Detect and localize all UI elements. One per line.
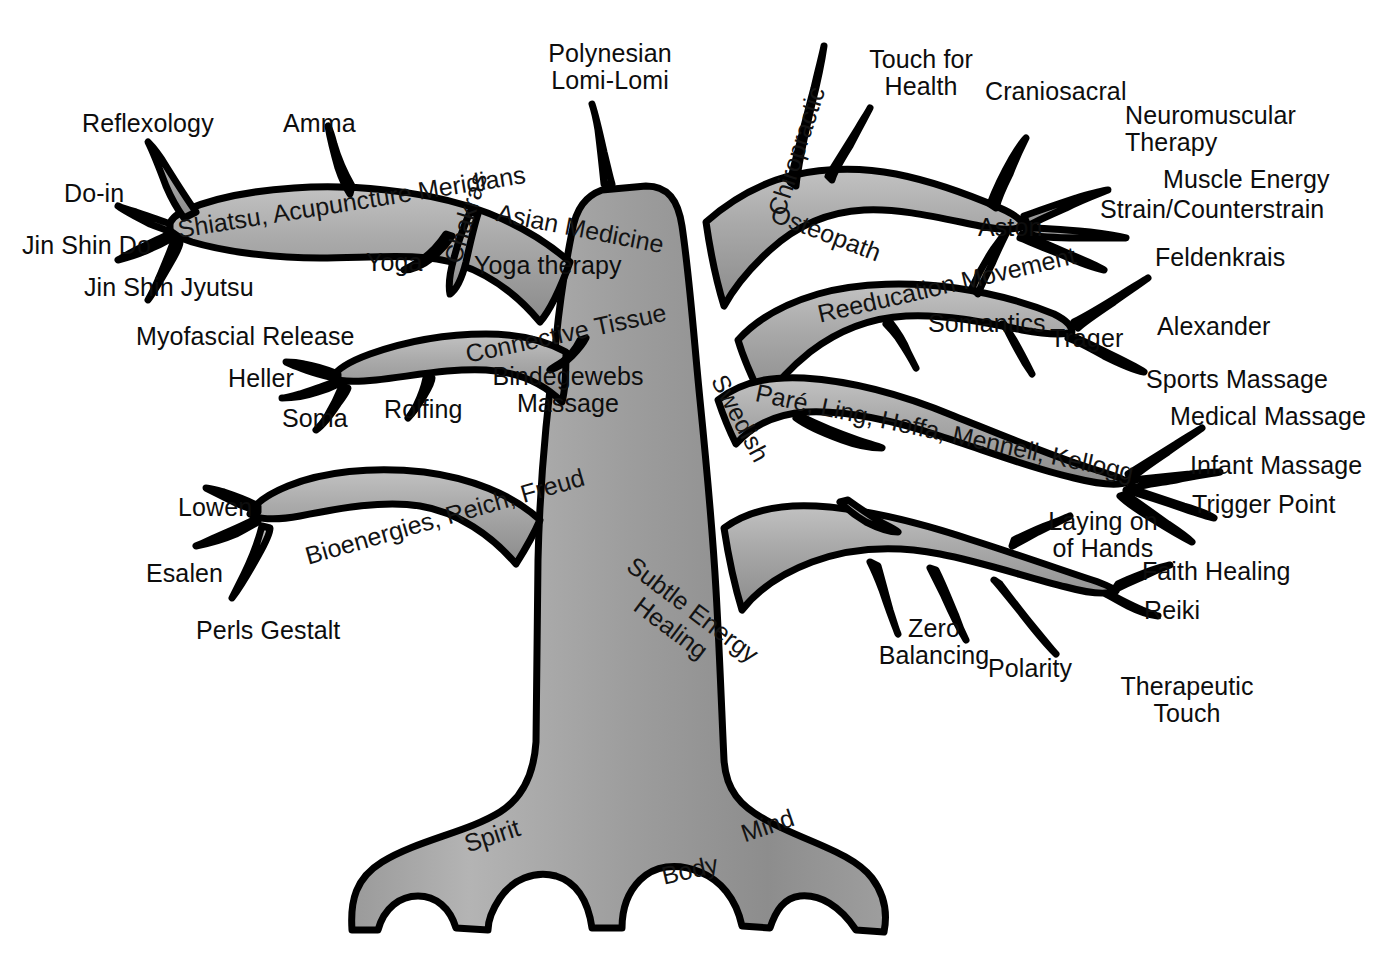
limb-polynesian (592, 104, 612, 184)
label-craniosacral: Craniosacral (985, 78, 1127, 105)
label-aston: Aston (978, 214, 1042, 241)
label-bindegewebs-massage: BindegewebsMassage (488, 363, 648, 416)
label-strain-counterstrain: Strain/Counterstrain (1100, 196, 1324, 223)
label-zero-balancing: ZeroBalancing (868, 615, 1000, 668)
label-somantics: Somantics (928, 310, 1046, 337)
label-polarity: Polarity (988, 655, 1072, 682)
label-alexander: Alexander (1157, 313, 1270, 340)
label-reflexology: Reflexology (82, 110, 214, 137)
twig-esalen (196, 520, 258, 546)
label-feldenkrais: Feldenkrais (1155, 244, 1285, 271)
label-esalen: Esalen (146, 560, 223, 587)
label-myofascial-release: Myofascial Release (136, 323, 355, 350)
label-laying-on-of-hands: Laying onof Hands (1030, 508, 1176, 561)
label-trager: Trager (1050, 325, 1123, 352)
label-neuromuscular-therapy: NeuromuscularTherapy (1125, 102, 1296, 155)
label-jin-shin-do: Jin Shin Do (22, 232, 151, 259)
twig-craniosacral (990, 138, 1026, 208)
label-muscle-energy: Muscle Energy (1163, 166, 1330, 193)
label-yoga-therapy: Yoga therapy (474, 252, 622, 279)
twig-reflexology (148, 142, 196, 218)
label-reiki: Reiki (1144, 597, 1200, 624)
label-infant-massage: Infant Massage (1190, 452, 1362, 479)
diagram-canvas: Reflexology Amma Do-in Jin Shin Do Jin S… (0, 0, 1377, 953)
twig-feldenkrais (1074, 278, 1148, 328)
label-perls-gestalt: Perls Gestalt (196, 617, 340, 644)
label-medical-massage: Medical Massage (1170, 403, 1366, 430)
label-doin: Do-in (64, 180, 124, 207)
label-trigger-point: Trigger Point (1192, 491, 1336, 518)
twig-therapeutic-touch (994, 580, 1056, 654)
label-heller: Heller (228, 365, 294, 392)
label-yoga: Yoga (366, 249, 423, 276)
label-lowen: Lowen (178, 494, 252, 521)
label-polynesian-lomi-lomi: PolynesianLomi-Lomi (520, 40, 700, 93)
label-amma: Amma (283, 110, 356, 137)
label-jin-shin-jyutsu: Jin Shin Jyutsu (84, 274, 254, 301)
label-rolfing: Rolfing (384, 396, 463, 423)
twig-somantics (886, 322, 916, 368)
twig-doin (118, 206, 170, 232)
label-sports-massage: Sports Massage (1146, 366, 1328, 393)
label-therapeutic-touch: TherapeuticTouch (1112, 673, 1262, 726)
label-soma: Soma (282, 405, 348, 432)
label-touch-for-health: Touch forHealth (846, 46, 996, 99)
label-faith-healing: Faith Healing (1142, 558, 1291, 585)
